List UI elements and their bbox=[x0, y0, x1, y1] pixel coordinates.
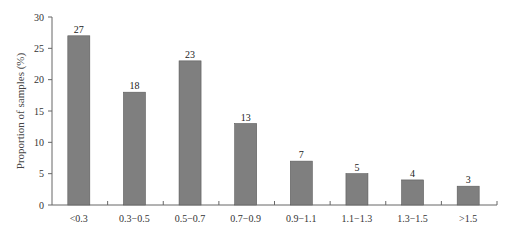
bar bbox=[68, 36, 90, 205]
bar bbox=[123, 92, 145, 205]
bar-value-label: 3 bbox=[466, 174, 471, 185]
y-tick-label: 0 bbox=[39, 200, 44, 211]
y-axis-title: Proportion of samples (%) bbox=[14, 52, 27, 169]
bar-value-label: 4 bbox=[410, 168, 415, 179]
x-category-label: 0.9−1.1 bbox=[286, 213, 317, 224]
bar-value-label: 5 bbox=[354, 162, 359, 173]
x-category-label: 1.1−1.3 bbox=[342, 213, 373, 224]
bar bbox=[235, 124, 257, 205]
x-category-label: <0.3 bbox=[70, 213, 88, 224]
x-category-label: 0.5−0.7 bbox=[175, 213, 206, 224]
y-tick-label: 5 bbox=[39, 168, 44, 179]
bar-group: 51.1−1.3 bbox=[342, 162, 373, 224]
x-category-label: 1.3−1.5 bbox=[397, 213, 428, 224]
bars: 27<0.3180.3−0.5230.5−0.7130.7−0.970.9−1.… bbox=[68, 24, 479, 224]
bar-group: 70.9−1.1 bbox=[286, 149, 317, 224]
bar bbox=[179, 61, 201, 205]
bar bbox=[346, 174, 368, 205]
bar-group: 3>1.5 bbox=[457, 174, 479, 224]
y-tick-label: 25 bbox=[34, 43, 44, 54]
bar-value-label: 7 bbox=[299, 149, 304, 160]
y-tick-label: 15 bbox=[34, 106, 44, 117]
bar-group: 130.7−0.9 bbox=[230, 112, 261, 224]
y-tick-label: 20 bbox=[34, 74, 44, 85]
x-axis bbox=[52, 201, 497, 205]
bar-group: 27<0.3 bbox=[68, 24, 90, 224]
bar-value-label: 13 bbox=[241, 112, 251, 123]
x-category-label: 0.7−0.9 bbox=[230, 213, 261, 224]
x-category-label: 0.3−0.5 bbox=[119, 213, 150, 224]
y-axis: 051015202530 bbox=[34, 12, 52, 211]
bar bbox=[457, 186, 479, 205]
bar bbox=[290, 161, 312, 205]
x-category-label: >1.5 bbox=[459, 213, 477, 224]
bar-value-label: 27 bbox=[74, 24, 84, 35]
bar-value-label: 18 bbox=[129, 80, 139, 91]
bar bbox=[402, 180, 424, 205]
bar-group: 41.3−1.5 bbox=[397, 168, 428, 224]
bar-group: 180.3−0.5 bbox=[119, 80, 150, 224]
y-tick-label: 10 bbox=[34, 137, 44, 148]
bar-value-label: 23 bbox=[185, 49, 195, 60]
bar-chart: 051015202530 27<0.3180.3−0.5230.5−0.7130… bbox=[0, 0, 507, 235]
y-tick-label: 30 bbox=[34, 12, 44, 23]
bar-group: 230.5−0.7 bbox=[175, 49, 206, 224]
